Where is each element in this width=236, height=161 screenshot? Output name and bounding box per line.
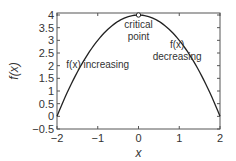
y-axis-label: f(x) (7, 62, 21, 79)
y-tick-label: 0 (48, 110, 54, 122)
y-tick-label: −0.5 (32, 123, 54, 135)
annotation-2: f(x) increasing (66, 59, 129, 70)
x-tick-label: 0 (135, 132, 141, 144)
annotation-line: critical (124, 19, 152, 30)
x-tick-label: 2 (217, 132, 223, 144)
y-tick-label: 0.5 (39, 98, 54, 110)
chart: −2−1012 −0.500.511.522.533.54 criticalpo… (0, 0, 236, 161)
y-tick-label: 2 (48, 60, 54, 72)
y-tick-label: 1 (48, 85, 54, 97)
annotation-1: f(x)decreasing (153, 39, 202, 62)
annotation-line: decreasing (153, 51, 202, 62)
annotation-line: f(x) (170, 39, 184, 50)
y-tick-label: 2.5 (39, 47, 54, 59)
y-tick-label: 4 (48, 9, 54, 21)
x-tick-label: −1 (91, 132, 104, 144)
y-tick-label: 3.5 (39, 22, 54, 34)
annotation-line: point (128, 31, 150, 42)
x-axis-label: x (135, 146, 143, 160)
annotation-line: f(x) increasing (66, 59, 129, 70)
x-tick-label: 1 (176, 132, 182, 144)
y-tick-label: 1.5 (39, 72, 54, 84)
critical-point-marker (136, 13, 140, 17)
annotation-0: criticalpoint (124, 19, 152, 42)
y-tick-label: 3 (48, 34, 54, 46)
annotations: criticalpointf(x)decreasingf(x) increasi… (66, 19, 201, 71)
